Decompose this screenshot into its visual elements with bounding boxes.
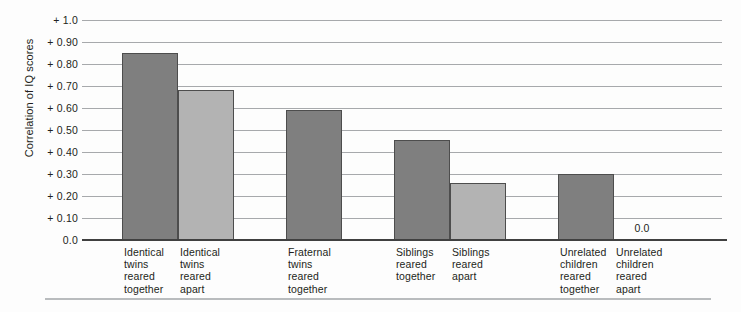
x-category-label: Siblings reared together <box>396 246 435 283</box>
iq-correlation-bar-chart: Correlation of IQ scores + 1.0+ 0.90+ 0.… <box>0 0 741 312</box>
x-axis-baseline <box>82 239 727 241</box>
gridline <box>82 42 722 43</box>
x-category-label: Siblings reared apart <box>452 246 490 283</box>
x-category-label: Fraternal twins reared together <box>288 246 331 295</box>
y-tick-label: + 0.20 <box>8 190 78 202</box>
bar <box>122 53 178 240</box>
x-category-label: Unrelated children reared together <box>560 246 606 295</box>
y-tick-label: + 0.60 <box>8 102 78 114</box>
x-category-label: Identical twins reared apart <box>180 246 220 295</box>
bar <box>450 183 506 240</box>
x-category-label: Identical twins reared together <box>124 246 164 295</box>
y-axis-tick-labels: + 1.0+ 0.90+ 0.80+ 0.70+ 0.60+ 0.50+ 0.4… <box>4 20 78 240</box>
bar <box>558 174 614 240</box>
y-tick-label: + 0.70 <box>8 80 78 92</box>
y-tick-label: + 0.10 <box>8 212 78 224</box>
y-tick-label: 0.0 <box>8 234 78 246</box>
y-tick-label: + 0.40 <box>8 146 78 158</box>
y-tick-label: + 0.80 <box>8 58 78 70</box>
y-tick-label: + 0.90 <box>8 36 78 48</box>
gridline <box>82 64 722 65</box>
y-tick-label: + 0.30 <box>8 168 78 180</box>
bar <box>394 140 450 240</box>
bar <box>178 90 234 240</box>
bar <box>286 110 342 240</box>
gridline <box>82 86 722 87</box>
bar-value-label: 0.0 <box>634 222 649 234</box>
y-tick-label: + 1.0 <box>8 14 78 26</box>
x-category-label: Unrelated children reared apart <box>616 246 662 295</box>
plot-area: 0.0 <box>82 20 722 240</box>
bottom-divider-rule <box>45 298 711 300</box>
gridline <box>82 20 722 21</box>
y-tick-label: + 0.50 <box>8 124 78 136</box>
